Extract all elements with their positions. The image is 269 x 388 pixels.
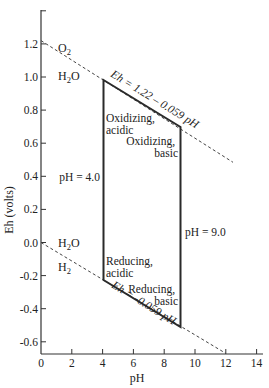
h2-label: H2 [58, 260, 71, 276]
h2o-label-bottom: H2O [58, 236, 80, 252]
y-tick-label: 1.0 [24, 71, 39, 83]
y-axis-label: Eh (volts) [2, 186, 16, 234]
y-tick-label: 1.2 [24, 38, 39, 50]
y-tick-label: -0.2 [20, 270, 38, 282]
x-tick-label: 14 [251, 357, 263, 369]
y-tick-label: 0.2 [24, 203, 39, 215]
y-tick-label: 0.0 [24, 237, 39, 249]
x-tick-label: 6 [131, 357, 137, 369]
y-tick-label: -0.4 [20, 303, 38, 315]
y-tick-label: 0.6 [24, 137, 39, 149]
y-tick-labels: 1.2 1.0 0.8 0.6 0.4 0.2 0.0 -0.2 -0.4 -0… [20, 38, 38, 348]
x-tick-label: 2 [69, 357, 75, 369]
x-axis-label: pH [130, 371, 145, 385]
x-tick-labels: 0 2 4 6 8 10 12 14 [38, 357, 262, 369]
h2o-label-top: H2O [58, 69, 80, 85]
o2-label: O2 [58, 41, 71, 57]
oxidizing-basic-label: Oxidizing, basic [126, 135, 178, 159]
x-tick-label: 8 [161, 357, 167, 369]
ph-9-label: pH = 9.0 [185, 226, 226, 239]
x-tick-label: 0 [38, 357, 44, 369]
x-tick-label: 4 [100, 357, 106, 369]
x-tick-label: 10 [189, 357, 201, 369]
eh-ph-chart: 1.2 1.0 0.8 0.6 0.4 0.2 0.0 -0.2 -0.4 -0… [0, 0, 269, 388]
oxidizing-acidic-label: Oxidizing, acidic [106, 112, 158, 136]
y-tick-label: 0.4 [24, 170, 39, 182]
reducing-acidic-label: Reducing, acidic [106, 255, 156, 279]
x-tick-label: 12 [220, 357, 232, 369]
y-tick-label: -0.6 [20, 336, 38, 348]
ph-4-label: pH = 4.0 [59, 171, 100, 184]
y-tick-label: 0.8 [24, 104, 39, 116]
y-ticks [41, 11, 46, 342]
x-ticks [72, 349, 257, 354]
